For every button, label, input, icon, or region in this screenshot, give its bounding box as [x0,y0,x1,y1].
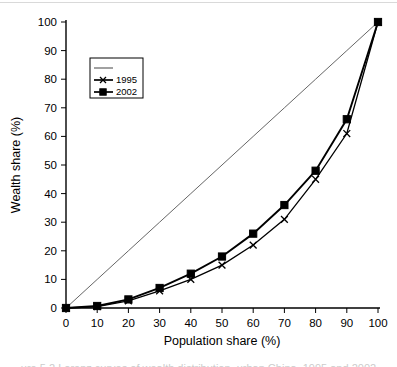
y-tick-label: 10 [44,273,57,285]
page-top-rule [0,2,397,3]
x-axis-title: Population share (%) [164,334,281,348]
x-tick-label: 0 [63,317,69,329]
legend-label: 1995 [116,74,137,85]
figure-container: Wealth share (%) Population share (%) 01… [0,0,397,367]
marker-square [94,302,101,309]
marker-x [312,176,319,183]
legend-layer: 19952002 [90,58,143,98]
y-tick-label: 0 [51,302,57,314]
x-tick-label: 10 [91,317,104,329]
y-axis-title: Wealth share (%) [9,117,23,213]
x-tick-label: 30 [153,317,166,329]
legend-label: 2002 [116,86,137,97]
figure-caption: ure 5.2 Lorenz curves of wealth distribu… [0,357,397,367]
y-tick-label: 40 [44,188,57,200]
x-tick-label: 50 [216,317,229,329]
marker-square [250,230,257,237]
y-tick-label: 60 [44,130,57,142]
y-tick-label: 70 [44,102,57,114]
marker-square [343,116,350,123]
lorenz-curve-chart: Wealth share (%) Population share (%) 01… [0,0,397,356]
x-tick-label: 60 [247,317,260,329]
marker-square [218,253,225,260]
y-tick-label: 20 [44,245,57,257]
x-tick-label: 40 [184,317,197,329]
x-tick-label: 80 [309,317,322,329]
marker-square [156,284,163,291]
marker-x [281,216,288,223]
marker-square [100,89,106,95]
marker-x [250,242,257,249]
marker-square [312,167,319,174]
marker-square [62,304,69,311]
x-tick-label: 100 [368,317,387,329]
marker-x [219,262,226,269]
y-tick-label: 80 [44,73,57,85]
marker-square [281,201,288,208]
y-tick-label: 30 [44,216,57,228]
x-tick-label: 20 [122,317,135,329]
marker-square [125,296,132,303]
y-tick-label: 100 [38,16,57,28]
marker-square [187,270,194,277]
marker-square [374,18,381,25]
x-tick-label: 70 [278,317,291,329]
x-tick-label: 90 [340,317,353,329]
y-tick-label: 90 [44,45,57,57]
y-tick-label: 50 [44,159,57,171]
